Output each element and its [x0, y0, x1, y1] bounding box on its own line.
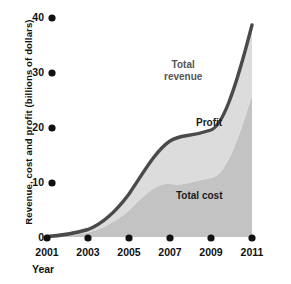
x-tick-dot-2003	[84, 234, 91, 241]
y-tick-label-0: 0	[22, 231, 44, 243]
y-tick-dot-30	[48, 69, 55, 76]
x-tick-label-2001: 2001	[27, 246, 67, 258]
y-tick-label-10: 10	[22, 176, 44, 188]
total-revenue-annotation: Total revenue	[164, 59, 202, 83]
y-tick-label-40: 40	[22, 11, 44, 23]
x-axis-title: Year	[32, 263, 54, 275]
x-tick-label-2003: 2003	[68, 246, 108, 258]
x-tick-dot-2009	[207, 234, 214, 241]
x-tick-dot-2005	[125, 234, 132, 241]
y-tick-label-20: 20	[22, 121, 44, 133]
x-tick-label-2007: 2007	[150, 246, 190, 258]
y-tick-dot-40	[48, 14, 55, 21]
x-tick-label-2011: 2011	[232, 246, 272, 258]
x-tick-dot-2007	[166, 234, 173, 241]
x-tick-dot-2011	[248, 234, 255, 241]
y-tick-dot-10	[48, 179, 55, 186]
total-cost-annotation: Total cost	[176, 190, 222, 201]
x-tick-dot-2001	[43, 234, 50, 241]
revenue-cost-profit-chart: Revenue, cost and profit (billions of do…	[0, 0, 291, 284]
y-tick-dot-20	[48, 124, 55, 131]
total-revenue-annotation-line2: revenue	[164, 71, 202, 83]
x-tick-label-2009: 2009	[191, 246, 231, 258]
y-tick-label-30: 30	[22, 66, 44, 78]
profit-annotation: Profit	[196, 117, 222, 128]
x-tick-label-2005: 2005	[109, 246, 149, 258]
total-revenue-annotation-line1: Total	[164, 59, 202, 71]
